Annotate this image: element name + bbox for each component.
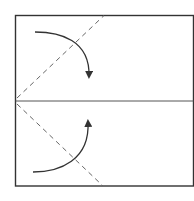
origami-diagram — [0, 0, 194, 201]
